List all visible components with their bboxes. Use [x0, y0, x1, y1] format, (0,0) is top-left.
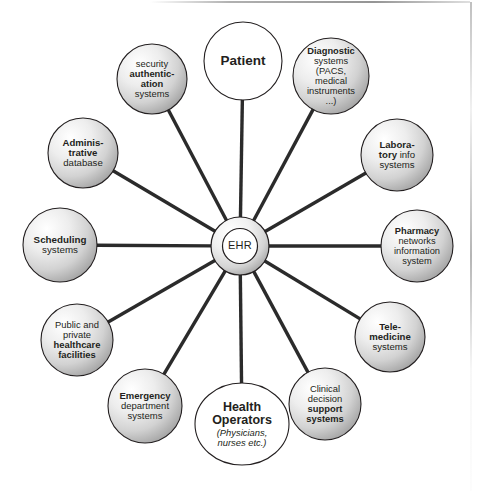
hub-layer [211, 217, 269, 275]
spoke-patient [240, 99, 242, 218]
node-security-authentication-systems[interactable] [117, 44, 187, 114]
spoke-clinical-decision-support [253, 271, 308, 374]
spoke-telemedicine-systems [264, 261, 361, 320]
node-administrative-database[interactable] [48, 118, 118, 188]
spoke-administrative-database [112, 170, 216, 231]
scan-edge-right [470, 2, 472, 491]
node-healthcare-facilities[interactable] [41, 304, 113, 376]
hub-inner-circle[interactable] [223, 229, 258, 264]
node-clinical-decision-support[interactable] [289, 368, 361, 440]
node-diagnostic-systems[interactable] [293, 38, 369, 114]
node-telemedicine-systems[interactable] [355, 302, 425, 372]
spoke-diagnostic-systems [253, 109, 313, 222]
diagram-canvas [0, 0, 479, 491]
node-emergency-department-systems[interactable] [108, 369, 182, 443]
ehr-hub-diagram: PatientDiagnosticsystems(PACS,medicalins… [0, 0, 479, 491]
spoke-laboratory-info-systems [264, 173, 367, 232]
scan-edge-top [150, 1, 470, 3]
spoke-health-operators [240, 274, 241, 384]
node-pharmacy-networks[interactable] [381, 210, 453, 282]
spoke-security-authentication-systems [168, 109, 227, 221]
node-laboratory-info-systems[interactable] [361, 119, 433, 191]
spoke-scheduling-systems [96, 245, 212, 246]
node-scheduling-systems[interactable] [23, 208, 97, 282]
node-health-operators[interactable] [195, 383, 289, 465]
node-patient[interactable] [204, 22, 282, 100]
